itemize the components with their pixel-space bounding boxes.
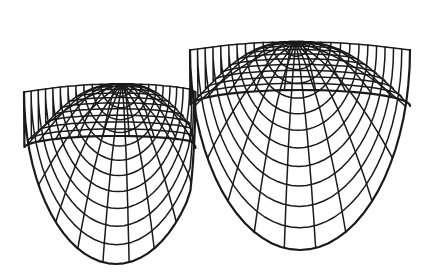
left-peak-mesh bbox=[24, 84, 195, 264]
right-peak-mesh bbox=[190, 41, 410, 250]
wireframe-surface-figure bbox=[0, 0, 428, 277]
